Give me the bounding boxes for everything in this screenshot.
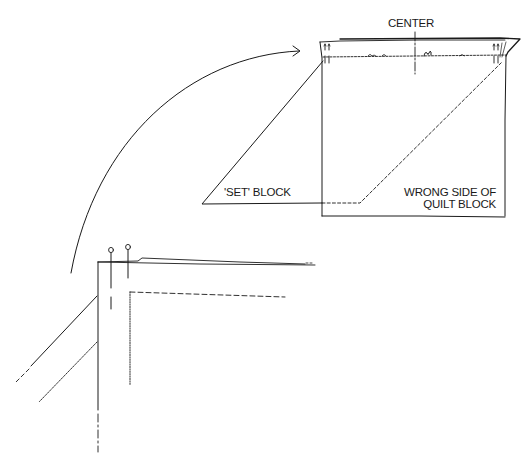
set-block-label: 'SET' BLOCK [224,187,291,198]
pin-head-icon [109,247,114,252]
center-label: CENTER [388,18,434,29]
quilt-block-label-line1: WRONG SIDE OF [404,187,496,198]
curved-arrow [71,46,300,273]
corner-detail [16,258,315,452]
diagram-svg [0,0,530,454]
set-block [202,61,502,204]
diagram-canvas: CENTER 'SET' BLOCK WRONG SIDE OF QUILT B… [0,0,530,454]
quilt-block-label-line2: QUILT BLOCK [423,199,496,210]
pin-left [109,247,114,309]
pin-head-icon [126,244,131,249]
